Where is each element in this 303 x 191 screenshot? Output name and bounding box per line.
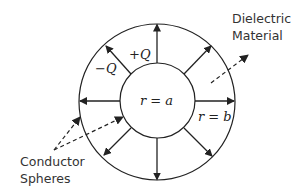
field-arrow-down-left (104, 128, 131, 155)
conductor-label-line1: Conductor (20, 154, 86, 169)
inner-sphere-pointer-arrow (54, 117, 123, 150)
negative-charge-label: −Q (95, 61, 117, 76)
outer-radius-label: r = b (198, 109, 232, 124)
inner-radius-label: r = a (140, 93, 173, 108)
field-arrow-down-right (184, 128, 212, 156)
spherical-capacitor-diagram: Dielectric Material Conductor Spheres +Q… (0, 0, 303, 191)
conductor-label-line2: Spheres (20, 171, 71, 186)
positive-charge-label: +Q (129, 47, 151, 62)
dielectric-pointer-arrow (211, 55, 248, 83)
dielectric-label-line2: Material (232, 28, 283, 43)
field-arrow-up-right (184, 46, 211, 74)
dielectric-label-line1: Dielectric (232, 11, 291, 26)
outer-sphere-pointer-arrow (54, 117, 80, 150)
